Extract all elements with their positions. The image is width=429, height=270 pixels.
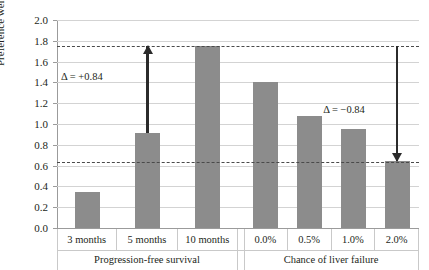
group-divider [244,250,245,270]
gridline [57,62,419,63]
category-label: 5 months [117,229,177,250]
category-divider [57,229,58,250]
bar [297,116,322,228]
group-axis: Progression-free survivalChance of liver… [57,250,419,270]
y-axis-tick-label: 0.6 [8,161,48,172]
y-axis-tick-label: 1.4 [8,77,48,88]
bar [135,133,160,228]
category-label: 0.0% [244,229,288,250]
category-label: 3 months [57,229,117,250]
delta-annotation-left: Δ = +0.84 [61,71,103,82]
bar [341,129,366,228]
category-axis: 3 months5 months10 months0.0%0.5%1.0%2.0… [57,229,419,251]
gridline [57,124,419,125]
reference-line [57,162,419,163]
y-axis-tick-label: 0.2 [8,202,48,213]
bar [75,192,100,228]
y-axis-tick-label: 1.2 [8,98,48,109]
annotation-arrow-shaft [396,46,398,161]
bar [253,82,278,228]
y-axis-tick-label: 0.0 [8,223,48,234]
y-axis-title: Preference weights [0,0,6,66]
y-axis-tick-label: 2.0 [8,15,48,26]
gridline [57,20,419,21]
annotation-arrow-head [392,153,402,162]
chart-container: Preference weights 0.00.20.40.60.81.01.2… [0,0,429,270]
y-axis-tick-label: 0.4 [8,181,48,192]
bar [195,46,220,228]
bar [385,161,410,228]
y-axis-tick-label: 1.8 [8,36,48,47]
y-axis-tick-label: 1.6 [8,57,48,68]
delta-annotation-right: Δ = −0.84 [323,104,365,115]
y-axis-tick-label: 1.0 [8,119,48,130]
group-label: Progression-free survival [57,250,238,270]
category-label: 10 months [178,229,238,250]
annotation-arrow-shaft [146,46,148,133]
group-divider [57,250,58,270]
gridline [57,41,419,42]
gridline [57,82,419,83]
plot-area: Δ = +0.84Δ = −0.84 [57,20,419,228]
annotation-arrow-head [143,45,153,54]
category-label: 0.5% [288,229,332,250]
category-label: 2.0% [375,229,419,250]
group-label: Chance of liver failure [244,250,419,270]
y-axis-tick-label: 0.8 [8,140,48,151]
reference-line [57,46,419,47]
category-divider [244,229,245,250]
category-label: 1.0% [332,229,376,250]
